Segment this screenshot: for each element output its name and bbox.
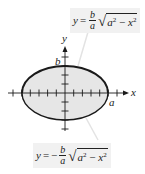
radicand-operator: − <box>116 16 128 28</box>
formula-equals: = <box>43 150 49 161</box>
radicand-x-exponent: 2 <box>103 151 107 159</box>
formula-fraction: b a <box>89 10 96 31</box>
fraction-denominator: a <box>60 156 65 166</box>
formula-equals: = <box>80 15 86 26</box>
radicand-operator: − <box>87 151 99 163</box>
radicand: a2 − x2 <box>106 13 137 28</box>
formula-lhs: y <box>73 15 78 26</box>
formula-negative-sign: − <box>51 150 57 161</box>
y-axis-label: y <box>62 33 67 44</box>
radicand-x-exponent: 2 <box>133 16 137 24</box>
formula-lhs: y <box>36 150 41 161</box>
lower-curve-formula: y = − b a √ a2 − x2 <box>33 143 111 168</box>
square-root: √ a2 − x2 <box>98 13 137 28</box>
lower-leader-line <box>86 118 98 140</box>
semi-minor-label-b: b <box>55 56 61 67</box>
upper-curve-formula: y = b a √ a2 − x2 <box>70 8 140 33</box>
radical-sign-icon: √ <box>68 149 76 163</box>
formula-fraction: b a <box>59 145 66 166</box>
radical-sign-icon: √ <box>98 14 106 28</box>
fraction-denominator: a <box>90 21 95 31</box>
upper-leader-line <box>78 32 88 66</box>
x-axis-label: x <box>131 87 136 98</box>
x-axis-arrow-icon <box>123 91 129 96</box>
y-axis-arrow-icon <box>63 46 68 52</box>
radicand: a2 − x2 <box>77 148 108 163</box>
square-root: √ a2 − x2 <box>68 148 107 163</box>
semi-major-label-a: a <box>109 97 115 108</box>
